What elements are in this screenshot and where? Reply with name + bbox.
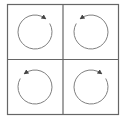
- rotate-ccw-icon: [18, 70, 52, 104]
- rotate-cw-icon: [74, 70, 108, 104]
- rotation-grid-diagram: [0, 0, 124, 119]
- rotate-ccw-icon: [74, 15, 108, 49]
- rotate-cw-icon: [18, 15, 52, 49]
